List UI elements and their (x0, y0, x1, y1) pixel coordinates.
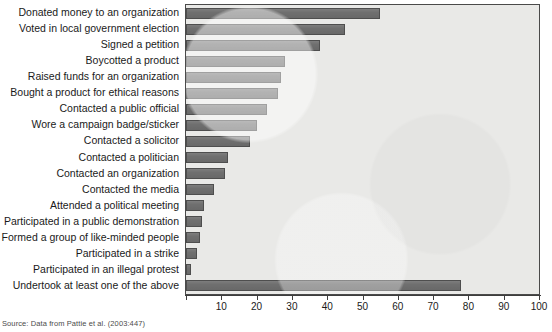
x-tick-label: 20 (242, 301, 272, 312)
bar (186, 264, 191, 275)
category-label-column: Donated money to an organizationVoted in… (0, 4, 183, 295)
x-tick-mark (468, 295, 469, 300)
bar (186, 136, 250, 147)
bar-row (186, 104, 539, 115)
category-label: Voted in local government election (19, 20, 179, 36)
category-label: Donated money to an organization (18, 4, 179, 20)
bar-row (186, 264, 539, 275)
bar (186, 24, 345, 35)
bar-row (186, 136, 539, 147)
x-tick-mark (186, 295, 187, 300)
bar (186, 232, 200, 243)
category-label: Contacted a public official (60, 100, 179, 116)
bar-row (186, 152, 539, 163)
bar-rows (186, 5, 539, 294)
bar-row (186, 56, 539, 67)
bar (186, 248, 197, 259)
category-label: Raised funds for an organization (28, 68, 179, 84)
bar (186, 280, 461, 291)
category-label: Contacted a solicitor (84, 132, 179, 148)
source-note: Source: Data from Pattie et al. (2003:44… (2, 319, 145, 328)
category-label: Signed a petition (101, 36, 179, 52)
category-label: Attended a political meeting (50, 197, 179, 213)
bar-row (186, 72, 539, 83)
bar-row (186, 8, 539, 19)
bar-row (186, 40, 539, 51)
x-tick-label: 60 (383, 301, 413, 312)
x-tick-label: 40 (312, 301, 342, 312)
bar (186, 88, 278, 99)
bar (186, 120, 257, 131)
x-tick-label: 70 (418, 301, 448, 312)
category-label: Contacted a politician (79, 149, 179, 165)
bar-row (186, 200, 539, 211)
bar (186, 40, 320, 51)
bar (186, 184, 214, 195)
bar (186, 72, 281, 83)
x-tick-mark (504, 295, 505, 300)
x-tick-label: 10 (206, 301, 236, 312)
plot-area (185, 4, 540, 295)
bar-row (186, 120, 539, 131)
bar-chart-figure: Donated money to an organizationVoted in… (0, 0, 552, 332)
bar-row (186, 232, 539, 243)
x-tick-mark (327, 295, 328, 300)
category-label: Participated in an illegal protest (33, 261, 179, 277)
bar (186, 152, 228, 163)
category-label: Wore a campaign badge/sticker (32, 116, 179, 132)
bar (186, 56, 285, 67)
category-label: Contacted the media (82, 181, 179, 197)
bar (186, 216, 202, 227)
category-label: Boycotted a product (86, 52, 179, 68)
bar-row (186, 216, 539, 227)
x-tick-label: 80 (453, 301, 483, 312)
category-label: Contacted an organization (56, 165, 179, 181)
x-tick-mark (221, 295, 222, 300)
x-tick-mark (257, 295, 258, 300)
category-label: Undertook at least one of the above (13, 277, 179, 293)
bar (186, 168, 225, 179)
category-label: Participated in a public demonstration (4, 213, 179, 229)
bar (186, 104, 267, 115)
x-tick-label: 90 (489, 301, 519, 312)
x-tick-mark (363, 295, 364, 300)
bar-row (186, 280, 539, 291)
bar-row (186, 248, 539, 259)
category-label: Formed a group of like-minded people (2, 229, 179, 245)
category-label: Bought a product for ethical reasons (10, 84, 179, 100)
x-axis: 102030405060708090100 (185, 295, 541, 317)
bar-row (186, 168, 539, 179)
bar (186, 8, 380, 19)
bar-row (186, 184, 539, 195)
x-tick-mark (539, 295, 540, 300)
bar-row (186, 88, 539, 99)
category-label: Participated in a strike (76, 245, 179, 261)
x-tick-label: 30 (277, 301, 307, 312)
x-tick-mark (292, 295, 293, 300)
x-tick-label: 100 (524, 301, 552, 312)
x-tick-label: 50 (348, 301, 378, 312)
x-tick-mark (433, 295, 434, 300)
bar-row (186, 24, 539, 35)
x-tick-mark (398, 295, 399, 300)
bar (186, 200, 204, 211)
